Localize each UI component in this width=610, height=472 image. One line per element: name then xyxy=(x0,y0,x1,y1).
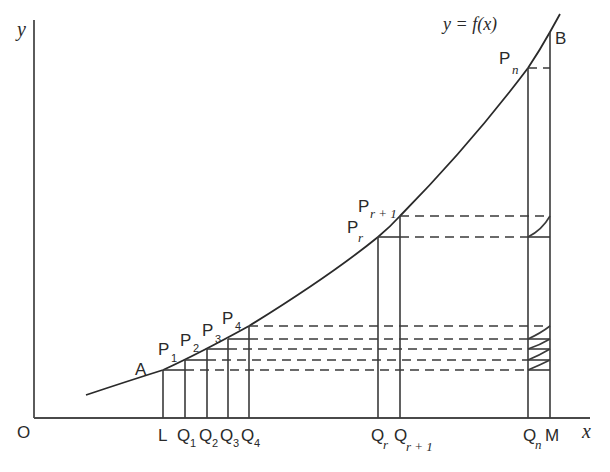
label-Q1: Q xyxy=(177,426,190,445)
svg-text:n: n xyxy=(535,437,542,452)
label-L: L xyxy=(158,426,167,445)
function-curve xyxy=(86,14,560,395)
stacked-strip xyxy=(528,216,550,370)
svg-text:3: 3 xyxy=(233,437,239,449)
origin-label: O xyxy=(17,423,30,442)
label-M: M xyxy=(545,426,559,445)
label-Pn: P xyxy=(499,49,510,68)
curve-label: y = f(x) xyxy=(441,14,497,35)
svg-text:1: 1 xyxy=(190,437,196,449)
label-Pr1: P xyxy=(358,197,369,216)
label-P3: P xyxy=(202,321,213,340)
label-P1: P xyxy=(158,340,169,359)
x-axis-labels: L Q 1 Q 2 Q 3 Q 4 Q r Q r + 1 Q n M xyxy=(158,426,559,454)
label-B: B xyxy=(555,29,566,48)
svg-text:r + 1: r + 1 xyxy=(370,206,397,221)
svg-text:n: n xyxy=(512,62,519,77)
label-Q3: Q xyxy=(220,426,233,445)
svg-text:r: r xyxy=(358,230,364,245)
strip-curve-1 xyxy=(528,360,550,370)
svg-text:2: 2 xyxy=(193,342,199,354)
axes: y x O xyxy=(15,18,591,442)
svg-text:3: 3 xyxy=(215,333,221,345)
strip-curve-4 xyxy=(528,326,550,339)
x-axis-label: x xyxy=(581,420,591,442)
svg-text:4: 4 xyxy=(254,437,260,449)
strip-curve-3 xyxy=(528,339,550,349)
svg-text:r + 1: r + 1 xyxy=(406,439,433,454)
svg-text:4: 4 xyxy=(235,320,241,332)
strip-curve-r xyxy=(528,216,550,237)
y-axis-label: y xyxy=(15,18,26,41)
label-Q2: Q xyxy=(199,426,212,445)
svg-text:2: 2 xyxy=(212,437,218,449)
strip-curve-2 xyxy=(528,349,550,360)
label-P4: P xyxy=(222,309,233,328)
label-P2: P xyxy=(180,331,191,350)
label-A: A xyxy=(135,360,147,379)
label-Pr: P xyxy=(347,218,358,237)
riemann-sum-diagram: y x O y = f(x) xyxy=(0,0,610,472)
svg-text:r: r xyxy=(383,437,389,452)
point-labels: A P 1 P 2 P 3 P 4 P r P r + 1 P n B xyxy=(135,29,566,379)
svg-text:1: 1 xyxy=(171,352,177,364)
label-Q4: Q xyxy=(241,426,254,445)
